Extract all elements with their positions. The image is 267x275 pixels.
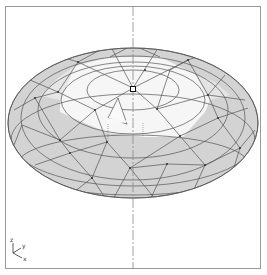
selected-vertex-marker[interactable] (131, 87, 136, 92)
axis-label-z: z (10, 236, 13, 243)
axis-label-x: x (23, 255, 27, 262)
axis-label-y: y (22, 242, 26, 250)
dome-canvas[interactable]: z y x (0, 0, 267, 275)
axis-triad-icon (13, 243, 22, 258)
